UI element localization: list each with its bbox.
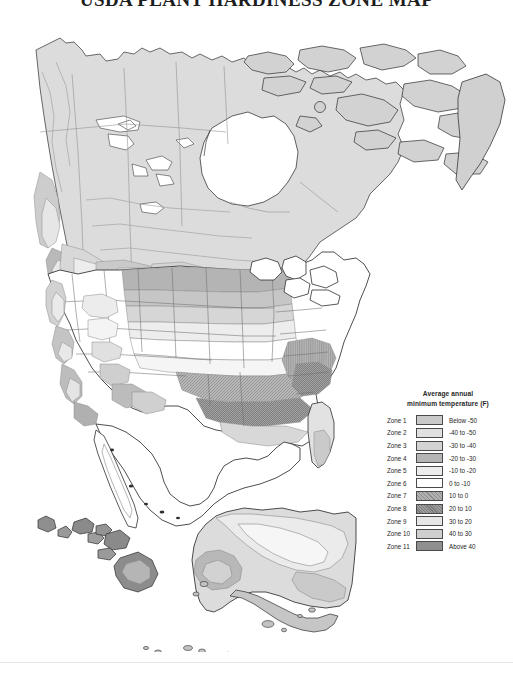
map-page: USDA PLANT HARDINESS ZONE MAP xyxy=(0,0,513,676)
legend-range-label: 40 to 30 xyxy=(449,530,472,537)
footer-divider xyxy=(0,662,513,663)
legend-row[interactable]: Zone 7 10 to 0 xyxy=(387,490,509,503)
legend-range-label: 20 to 10 xyxy=(449,505,472,512)
legend-zone-label: Zone 3 xyxy=(387,442,416,449)
legend-color-swatch xyxy=(416,491,443,501)
legend-row[interactable]: Zone 5 -10 to -20 xyxy=(387,464,509,477)
florida-peninsula xyxy=(308,402,334,468)
legend-color-swatch xyxy=(416,428,443,438)
legend-zone-label: Zone 9 xyxy=(387,518,416,525)
region-hawaii-inset xyxy=(38,516,158,592)
legend-color-swatch xyxy=(416,415,443,425)
legend-zone-label: Zone 6 xyxy=(387,480,416,487)
legend-color-swatch xyxy=(416,529,443,539)
legend-color-swatch xyxy=(416,441,443,451)
legend-range-label: -10 to -20 xyxy=(449,467,476,474)
legend-range-label: -20 to -30 xyxy=(449,455,476,462)
legend-row[interactable]: Zone 10 40 to 30 xyxy=(387,527,509,540)
legend-range-label: -30 to -40 xyxy=(449,442,476,449)
legend-color-swatch xyxy=(416,516,443,526)
legend-range-label: 10 to 0 xyxy=(449,492,468,499)
legend-zone-label: Zone 7 xyxy=(387,492,416,499)
legend-row[interactable]: Zone 11 Above 40 xyxy=(387,540,509,553)
legend-zone-label: Zone 2 xyxy=(387,429,416,436)
legend-zone-label: Zone 4 xyxy=(387,455,416,462)
legend-range-label: -40 to -50 xyxy=(449,429,476,436)
legend-zone-label: Zone 11 xyxy=(387,543,416,550)
legend-title-line1: Average annual xyxy=(423,390,473,397)
legend-color-swatch xyxy=(416,541,443,551)
legend-range-label: 30 to 20 xyxy=(449,518,472,525)
map-legend: Average annual minimum temperature (F) Z… xyxy=(387,389,509,553)
legend-range-label: Above 40 xyxy=(449,543,476,550)
legend-color-swatch xyxy=(416,466,443,476)
us-zone-bands-central xyxy=(128,320,304,376)
legend-row[interactable]: Zone 9 30 to 20 xyxy=(387,515,509,528)
hardiness-zone-map xyxy=(0,12,513,652)
legend-range-label: Below -50 xyxy=(449,417,477,424)
legend-row[interactable]: Zone 6 0 to -10 xyxy=(387,477,509,490)
legend-row[interactable]: Zone 2 -40 to -50 xyxy=(387,427,509,440)
map-canvas xyxy=(0,12,513,652)
region-alaska-inset xyxy=(143,508,356,652)
page-title: USDA PLANT HARDINESS ZONE MAP xyxy=(0,0,513,11)
legend-color-swatch xyxy=(416,478,443,488)
legend-color-swatch xyxy=(416,453,443,463)
legend-zone-label: Zone 5 xyxy=(387,467,416,474)
legend-title: Average annual minimum temperature (F) xyxy=(387,389,509,408)
legend-zone-label: Zone 8 xyxy=(387,505,416,512)
legend-row[interactable]: Zone 8 20 to 10 xyxy=(387,502,509,515)
legend-zone-label: Zone 1 xyxy=(387,417,416,424)
legend-zone-label: Zone 10 xyxy=(387,530,416,537)
legend-color-swatch xyxy=(416,504,443,514)
legend-row[interactable]: Zone 4 -20 to -30 xyxy=(387,452,509,465)
legend-row[interactable]: Zone 1 Below -50 xyxy=(387,414,509,427)
legend-row[interactable]: Zone 3 -30 to -40 xyxy=(387,439,509,452)
legend-title-line2: minimum temperature (F) xyxy=(407,400,489,407)
legend-range-label: 0 to -10 xyxy=(449,480,470,487)
